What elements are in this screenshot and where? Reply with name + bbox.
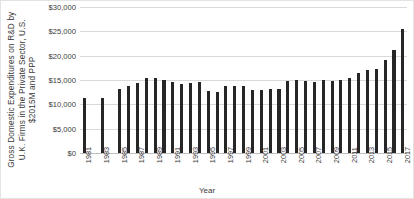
x-axis-tick-slot bbox=[336, 154, 345, 180]
bar-slot bbox=[124, 7, 133, 153]
x-axis-tick-slot: 2003 bbox=[275, 154, 284, 180]
bar bbox=[118, 89, 121, 153]
bar-slot bbox=[372, 7, 381, 153]
bar-slot bbox=[186, 7, 195, 153]
x-axis-tick-slot bbox=[177, 154, 186, 180]
y-axis-title-line-3: $2015M and PPP bbox=[28, 12, 39, 168]
x-axis-tick-slot: 1993 bbox=[186, 154, 195, 180]
bar-slot bbox=[177, 7, 186, 153]
bar bbox=[145, 78, 148, 153]
x-axis-tick-slot: 2007 bbox=[310, 154, 319, 180]
bar-series bbox=[80, 7, 407, 153]
bar-slot bbox=[319, 7, 328, 153]
bar bbox=[286, 81, 289, 153]
x-axis-tick-slot bbox=[283, 154, 292, 180]
y-axis-tick-label: $10,000 bbox=[49, 100, 76, 109]
x-axis-tick-slot bbox=[195, 154, 204, 180]
x-axis-tick-slot: 2005 bbox=[292, 154, 301, 180]
x-axis-tick-slot: 2009 bbox=[328, 154, 337, 180]
x-axis-tick-slot bbox=[354, 154, 363, 180]
x-axis-tick-slot: 1991 bbox=[168, 154, 177, 180]
plot-area bbox=[80, 7, 407, 153]
bar bbox=[304, 81, 307, 153]
x-axis-tick-slot bbox=[213, 154, 222, 180]
bar-slot bbox=[257, 7, 266, 153]
bar-slot bbox=[133, 7, 142, 153]
bar bbox=[322, 80, 325, 153]
bar-slot bbox=[230, 7, 239, 153]
x-axis-tick-slot bbox=[89, 154, 98, 180]
bar bbox=[242, 86, 245, 153]
x-axis-tick-slot: 2015 bbox=[381, 154, 390, 180]
bar-slot bbox=[204, 7, 213, 153]
x-axis-tick-slot bbox=[248, 154, 257, 180]
y-axis-tick-labels: $0$5,000$10,000$15,000$20,000$25,000$30,… bbox=[43, 1, 79, 179]
bar-slot bbox=[292, 7, 301, 153]
x-axis-title: Year bbox=[1, 186, 413, 195]
bar bbox=[269, 89, 272, 153]
y-axis-tick-label: $5,000 bbox=[53, 124, 76, 133]
x-axis-tick-slot bbox=[107, 154, 116, 180]
x-axis-tick-slot: 1981 bbox=[80, 154, 89, 180]
bar bbox=[339, 80, 342, 153]
bar bbox=[233, 86, 236, 153]
bar-slot bbox=[213, 7, 222, 153]
x-axis-tick-slot: 1989 bbox=[151, 154, 160, 180]
bar-slot bbox=[80, 7, 89, 153]
y-axis-tick-label: $20,000 bbox=[49, 51, 76, 60]
x-axis-tick-slot bbox=[160, 154, 169, 180]
bar bbox=[348, 78, 351, 153]
x-axis-tick-label: 2017 bbox=[403, 147, 412, 163]
bar bbox=[384, 60, 387, 153]
bar bbox=[366, 70, 369, 153]
y-axis-title: Gross Domestic Expenditures on R&D by U.… bbox=[1, 1, 45, 179]
bar-slot bbox=[275, 7, 284, 153]
y-axis-tick-label: $25,000 bbox=[49, 27, 76, 36]
bar bbox=[224, 86, 227, 153]
bar-slot bbox=[398, 7, 407, 153]
x-axis-tick-slot: 1995 bbox=[204, 154, 213, 180]
x-axis-tick-slot bbox=[372, 154, 381, 180]
bar-slot bbox=[301, 7, 310, 153]
bar bbox=[136, 83, 139, 153]
bar-slot bbox=[222, 7, 231, 153]
x-axis-tick-slot bbox=[301, 154, 310, 180]
x-axis-tick-slot bbox=[142, 154, 151, 180]
y-axis-title-line-1: Gross Domestic Expenditures on R&D by bbox=[7, 12, 18, 168]
bar bbox=[401, 29, 404, 153]
x-axis-tick-slot: 1997 bbox=[222, 154, 231, 180]
bar-slot bbox=[390, 7, 399, 153]
bar bbox=[331, 81, 334, 153]
x-axis-tick-slot bbox=[266, 154, 275, 180]
bar bbox=[101, 98, 104, 153]
bar-slot bbox=[248, 7, 257, 153]
bar bbox=[171, 82, 174, 153]
bar bbox=[216, 92, 219, 153]
y-axis-tick-label: $15,000 bbox=[49, 76, 76, 85]
bar bbox=[277, 89, 280, 153]
y-axis-tick-label: $30,000 bbox=[49, 3, 76, 12]
bar bbox=[162, 80, 165, 153]
bar bbox=[313, 82, 316, 153]
bar bbox=[180, 84, 183, 153]
bar-slot bbox=[283, 7, 292, 153]
x-axis-tick-slot bbox=[390, 154, 399, 180]
bar bbox=[154, 78, 157, 153]
bar bbox=[207, 91, 210, 153]
bar-slot bbox=[345, 7, 354, 153]
bar-slot bbox=[160, 7, 169, 153]
bar bbox=[295, 80, 298, 153]
x-axis-tick-slot: 1983 bbox=[98, 154, 107, 180]
bar-slot bbox=[89, 7, 98, 153]
bar-slot bbox=[266, 7, 275, 153]
bar-slot bbox=[98, 7, 107, 153]
bar-slot bbox=[115, 7, 124, 153]
bar bbox=[83, 98, 86, 153]
x-axis-tick-slot bbox=[319, 154, 328, 180]
bar-slot bbox=[381, 7, 390, 153]
bar-slot bbox=[195, 7, 204, 153]
chart-container: Gross Domestic Expenditures on R&D by U.… bbox=[0, 0, 414, 199]
y-axis-title-line-2: U.K. Firms in the Private Sector, U.S. bbox=[18, 12, 29, 168]
x-axis-tick-slot: 2011 bbox=[345, 154, 354, 180]
bar-slot bbox=[354, 7, 363, 153]
